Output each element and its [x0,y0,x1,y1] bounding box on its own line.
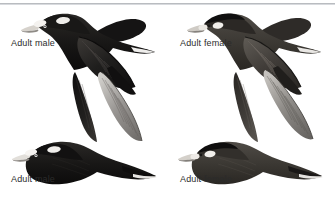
caption-top-left-adult-male: Adult male [11,39,55,48]
far-wing-raised [73,72,97,142]
caption-bottom-left-adult-male: Adult male [11,175,55,184]
bird-bottom-left-adult-male [12,72,157,184]
caption-bottom-right-adult-female: Adult female [180,175,232,184]
far-wing-raised [234,72,258,142]
illustration-plate: Adult male Adult female Adult male Adult… [0,0,335,199]
bird-top-left-adult-male [21,14,155,95]
pupil [44,26,45,27]
eye [200,154,203,157]
bird-bottom-right-adult-female [178,70,323,184]
scoter-flight-illustration [0,0,335,199]
caption-top-right-adult-female: Adult female [180,39,232,48]
bird-top-right-adult-female [187,14,321,95]
eye [208,25,211,28]
pupil [35,155,36,156]
